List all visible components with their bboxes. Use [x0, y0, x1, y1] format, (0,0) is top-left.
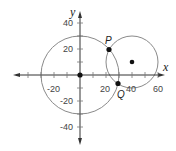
coordinate-diagram: x y -20 20 40 60 40 20 -20 -40 P Q — [0, 0, 176, 151]
intersection-point-p — [106, 47, 111, 52]
y-tick-label: 20 — [63, 44, 73, 54]
x-tick-label: -20 — [47, 84, 60, 94]
intersection-point-q — [115, 81, 120, 86]
x-axis-left-arrow-icon — [13, 73, 20, 77]
y-tick-label: 40 — [63, 18, 73, 28]
y-tick-label: -20 — [60, 96, 73, 106]
y-axis — [77, 11, 83, 145]
x-tick-label: 40 — [126, 84, 136, 94]
x-tick-label: 20 — [100, 84, 110, 94]
y-axis-label: y — [69, 5, 76, 19]
y-tick-label: -40 — [60, 122, 73, 132]
small-circle-center-point — [130, 60, 135, 65]
point-p-label: P — [105, 35, 112, 46]
x-axis-label: x — [162, 60, 169, 74]
x-tick-label: 60 — [153, 84, 163, 94]
y-axis-up-arrow-icon — [78, 11, 82, 18]
point-q-label: Q — [117, 89, 125, 100]
y-axis-down-arrow-icon — [78, 138, 82, 145]
x-axis — [13, 72, 165, 78]
origin-center-point — [77, 72, 82, 77]
